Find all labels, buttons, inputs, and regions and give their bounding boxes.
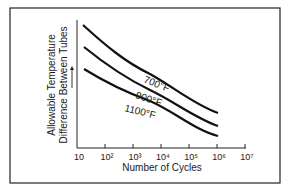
chart: 10 10² 10³ 10⁴ 10⁵ 10⁶ 10⁷ Number of Cyc…	[0, 0, 294, 189]
x-axis-label: Number of Cycles	[122, 162, 201, 173]
x-tick-labels: 10 10² 10³ 10⁴ 10⁵ 10⁶ 10⁷	[74, 152, 254, 162]
svg-text:10⁵: 10⁵	[184, 152, 198, 162]
x-ticks	[105, 144, 245, 148]
svg-text:10³: 10³	[128, 152, 141, 162]
svg-text:10⁶: 10⁶	[212, 152, 226, 162]
svg-text:10⁴: 10⁴	[156, 152, 170, 162]
svg-text:10²: 10²	[100, 152, 113, 162]
y-axis-label-line2: Difference Between Tubes	[58, 26, 69, 143]
y-axis-label-line1: Allowable Temperature	[46, 34, 57, 136]
svg-text:10: 10	[74, 152, 84, 162]
svg-text:10⁷: 10⁷	[240, 152, 253, 162]
up-arrow-icon	[70, 66, 74, 88]
